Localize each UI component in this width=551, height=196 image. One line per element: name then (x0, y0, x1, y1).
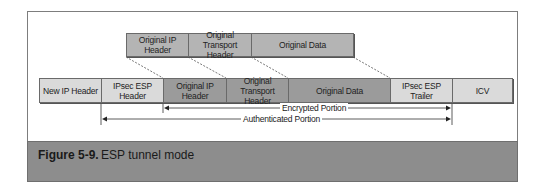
orig-data-field: Original Data (251, 33, 354, 57)
field-label: Header (139, 45, 176, 55)
field-label: ICV (476, 86, 490, 96)
encap-orig-ip-header-field: Original IP Header (163, 78, 227, 103)
encrypted-portion-label: Encrypted Portion (280, 103, 348, 113)
orig-ip-header-field: Original IP Header (126, 33, 189, 57)
field-label: IPsec ESP Trailer (391, 81, 452, 101)
figure-title: ESP tunnel mode (101, 148, 194, 162)
authenticated-portion-label: Authenticated Portion (241, 114, 322, 124)
field-label: Original IP (139, 35, 176, 45)
orig-transport-header-field: Original Transport Header (188, 33, 252, 57)
encap-orig-transport-header-field: Original Transport Header (226, 78, 289, 103)
field-label: Header (176, 91, 213, 101)
new-ip-header-field: New IP Header (39, 78, 102, 103)
field-label: Transport Header (189, 40, 251, 60)
field-label: Original (227, 76, 288, 86)
esp-trailer-field: IPsec ESP Trailer (390, 78, 453, 103)
field-label: Original Data (316, 86, 363, 96)
esp-header-field: IPsec ESP Header (101, 78, 164, 103)
encap-orig-data-field: Original Data (288, 78, 391, 103)
figure-number: Figure 5-9. (38, 148, 99, 162)
field-label: Header (113, 91, 152, 101)
field-label: Original Data (279, 40, 326, 50)
field-label: New IP Header (43, 86, 98, 96)
field-label: IPsec ESP (113, 81, 152, 91)
field-label: Original (189, 30, 251, 40)
field-label: Original IP (176, 81, 213, 91)
figure-caption: Figure 5-9. ESP tunnel mode (27, 141, 518, 182)
icv-field: ICV (452, 78, 513, 103)
field-label: Transport Header (227, 86, 288, 106)
